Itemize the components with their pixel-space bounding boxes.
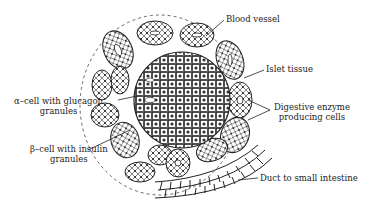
- leader-islet-tissue: [244, 70, 264, 78]
- label-alpha-cell: α–cell with glucagon granules: [14, 96, 103, 116]
- label-islet-tissue: Islet tissue: [266, 64, 313, 74]
- label-duct: Duct to small intestine: [260, 173, 358, 183]
- leader-duct: [238, 178, 258, 180]
- label-blood-vessel: Blood vessel: [226, 14, 280, 24]
- label-digestive-cells: Digestive enzyme producing cells: [274, 102, 350, 122]
- leader-digestive-2: [248, 110, 270, 120]
- label-beta-cell: β–cell with insulin granules: [30, 144, 108, 164]
